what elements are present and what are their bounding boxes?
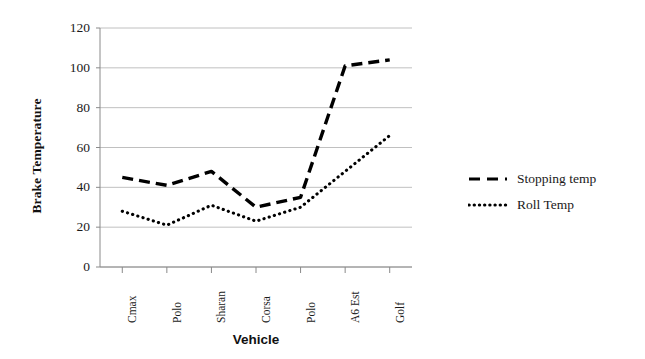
x-axis-tick-label: Corsa [261, 296, 273, 323]
x-axis-tick-label: A6 Est [350, 291, 362, 323]
y-axis-tick-label: 0 [50, 260, 90, 274]
legend-swatch-dashed [468, 173, 508, 185]
legend-label-stopping-temp: Stopping temp [517, 171, 596, 187]
legend-item-roll-temp: Roll Temp [468, 192, 640, 218]
x-axis-tick-label: Golf [395, 302, 407, 323]
x-axis-tick-label: Cmax [127, 296, 139, 323]
x-axis-tick-label: Sharan [216, 291, 228, 323]
y-axis-tick-label: 120 [50, 21, 90, 35]
y-axis-tick-label: 100 [50, 61, 90, 75]
brake-temperature-chart: Brake Temperature 020406080100120 CmaxPo… [0, 0, 645, 359]
series-line-roll-temp [122, 136, 389, 226]
y-axis-tick-label: 40 [50, 180, 90, 194]
y-axis-tick-label: 20 [50, 220, 90, 234]
legend-swatch-dotted [468, 199, 508, 211]
y-axis-title: Brake Temperature [29, 61, 45, 251]
x-axis-tick-label: Polo [172, 302, 184, 323]
x-axis-title: Vehicle [100, 332, 412, 347]
chart-legend: Stopping temp Roll Temp [468, 166, 640, 218]
y-axis-tick-label: 60 [50, 141, 90, 155]
legend-label-roll-temp: Roll Temp [517, 197, 574, 213]
x-axis-tick-label: Polo [306, 302, 318, 323]
legend-item-stopping-temp: Stopping temp [468, 166, 640, 192]
y-axis-tick-label: 80 [50, 101, 90, 115]
series-line-stopping-temp [122, 60, 389, 207]
